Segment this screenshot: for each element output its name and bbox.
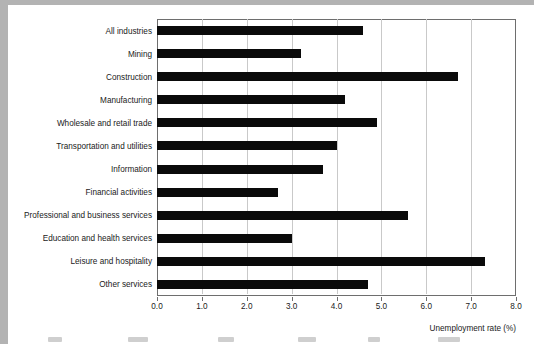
bar — [157, 165, 323, 174]
x-axis-tick — [247, 297, 248, 301]
category-label: Professional and business services — [8, 211, 152, 220]
grid-line — [426, 19, 427, 294]
grid-line — [381, 19, 382, 294]
category-label: Manufacturing — [8, 95, 152, 104]
x-axis-tick-label: 3.0 — [286, 302, 297, 311]
bar — [157, 188, 278, 197]
document-page: 0.01.02.03.04.05.06.07.08.0All industrie… — [8, 5, 534, 344]
category-label: Other services — [8, 280, 152, 289]
x-axis-tick-label: 8.0 — [510, 302, 521, 311]
x-axis-tick-label: 4.0 — [331, 302, 342, 311]
category-label: Transportation and utilities — [8, 141, 152, 150]
page-bottom-cropped-text — [8, 336, 534, 344]
x-axis-tick — [202, 297, 203, 301]
category-label: Construction — [8, 72, 152, 81]
x-axis-tick — [337, 297, 338, 301]
category-label: Education and health services — [8, 234, 152, 243]
grid-line — [247, 19, 248, 294]
x-axis-tick-label: 5.0 — [376, 302, 387, 311]
x-axis-tick — [471, 297, 472, 301]
category-label: Wholesale and retail trade — [8, 118, 152, 127]
grid-line — [337, 19, 338, 294]
x-axis-tick — [426, 297, 427, 301]
x-axis-tick-label: 6.0 — [421, 302, 432, 311]
x-axis-tick-label: 1.0 — [196, 302, 207, 311]
x-axis-tick — [516, 297, 517, 301]
bar — [157, 49, 301, 58]
x-axis-tick-label: 7.0 — [465, 302, 476, 311]
x-axis-tick-label: 2.0 — [241, 302, 252, 311]
x-axis-tick — [157, 297, 158, 301]
bar — [157, 257, 485, 266]
bar — [157, 95, 345, 104]
bar — [157, 118, 377, 127]
x-axis-tick — [381, 297, 382, 301]
bar — [157, 234, 292, 243]
category-label: Leisure and hospitality — [8, 257, 152, 266]
x-axis-tick — [292, 297, 293, 301]
bar — [157, 72, 458, 81]
category-label: All industries — [8, 26, 152, 35]
bar — [157, 26, 363, 35]
grid-line — [292, 19, 293, 294]
x-axis-title: Unemployment rate (%) — [430, 324, 516, 333]
grid-line — [202, 19, 203, 294]
bar — [157, 280, 368, 289]
category-label: Mining — [8, 49, 152, 58]
category-label: Financial activities — [8, 188, 152, 197]
x-axis-tick-label: 0.0 — [151, 302, 162, 311]
category-label: Information — [8, 165, 152, 174]
bar — [157, 141, 337, 150]
unemployment-rate-bar-chart: 0.01.02.03.04.05.06.07.08.0All industrie… — [8, 5, 534, 344]
grid-line — [471, 19, 472, 294]
bar — [157, 211, 408, 220]
